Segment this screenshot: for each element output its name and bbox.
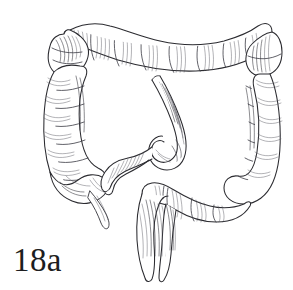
- figure-panel: 18a: [0, 0, 293, 290]
- figure-label: 18a: [13, 243, 62, 277]
